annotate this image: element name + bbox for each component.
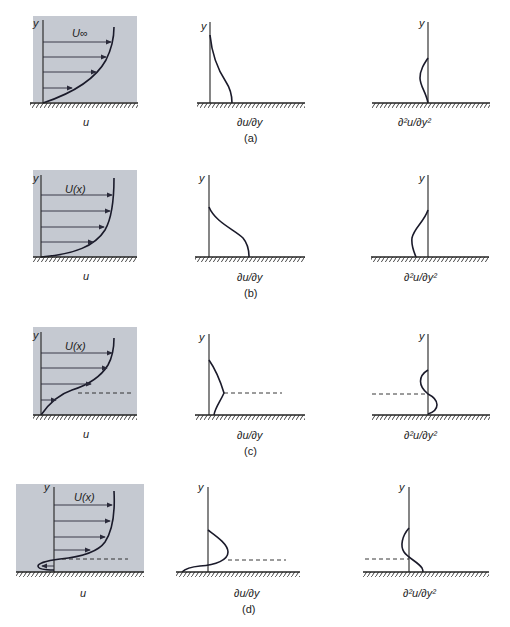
u-label: u: [83, 116, 89, 128]
caption-c: (c): [244, 445, 257, 457]
freestream-label: U∞: [72, 27, 88, 39]
y-axis-label: y: [198, 172, 206, 184]
y-axis-label: y: [200, 20, 208, 32]
caption-d: (d): [242, 603, 255, 615]
caption-a: (a): [244, 132, 257, 144]
d2u-dy2-plot-c: y ∂²u/∂y²: [372, 330, 490, 441]
d2u-dy2-plot-d: y ∂²u/∂y²: [363, 481, 489, 599]
du-dy-plot-b: y ∂u/∂y (b): [195, 172, 305, 299]
row-a: y U∞ u y ∂u/∂y (a) y ∂²u/∂y²: [30, 16, 490, 144]
freestream-label: U(x): [65, 340, 86, 352]
y-axis-label: y: [418, 330, 426, 342]
caption-b: (b): [244, 287, 257, 299]
velocity-profile-panel-b: y U(x) u: [32, 170, 137, 282]
velocity-profile-panel-d: y U(x) u: [16, 481, 144, 599]
d2u-dy2-label: ∂²u/∂y²: [398, 116, 431, 128]
boundary-layer-figure: y U∞ u y ∂u/∂y (a) y ∂²u/∂y²: [0, 0, 510, 627]
freestream-label: U(x): [74, 491, 95, 503]
du-dy-label: ∂u/∂y: [237, 429, 264, 441]
y-axis-label: y: [197, 481, 205, 493]
u-label: u: [80, 587, 86, 599]
y-axis-label: y: [398, 481, 406, 493]
row-c: y U(x) u y ∂u/∂y (c) y ∂²u/∂y²: [32, 327, 490, 457]
d2u-dy2-plot-a: y ∂²u/∂y²: [372, 17, 490, 128]
d2u-dy2-label: ∂²u/∂y²: [404, 429, 437, 441]
u-label: u: [83, 270, 89, 282]
d2u-dy2-label: ∂²u/∂y²: [403, 587, 436, 599]
du-dy-label: ∂u/∂y: [237, 271, 264, 283]
du-dy-label: ∂u/∂y: [234, 587, 261, 599]
du-dy-plot-c: y ∂u/∂y (c): [195, 331, 305, 457]
du-dy-plot-d: y ∂u/∂y (d): [176, 481, 300, 615]
u-label: u: [83, 428, 89, 440]
y-axis-label: y: [418, 172, 426, 184]
y-axis-label: y: [418, 17, 426, 29]
du-dy-plot-a: y ∂u/∂y (a): [197, 20, 305, 144]
row-b: y U(x) u y ∂u/∂y (b) y ∂²u/∂y²: [32, 170, 489, 299]
d2u-dy2-plot-b: y ∂²u/∂y²: [371, 172, 489, 283]
velocity-profile-panel-c: y U(x) u: [32, 327, 137, 440]
y-axis-label: y: [198, 331, 206, 343]
velocity-profile-panel-a: y U∞ u: [30, 16, 138, 128]
du-dy-label: ∂u/∂y: [237, 116, 264, 128]
freestream-label: U(x): [65, 183, 86, 195]
row-d: y U(x) u y ∂u/∂y (d) y ∂²u/∂y²: [16, 481, 489, 615]
d2u-dy2-label: ∂²u/∂y²: [404, 271, 437, 283]
